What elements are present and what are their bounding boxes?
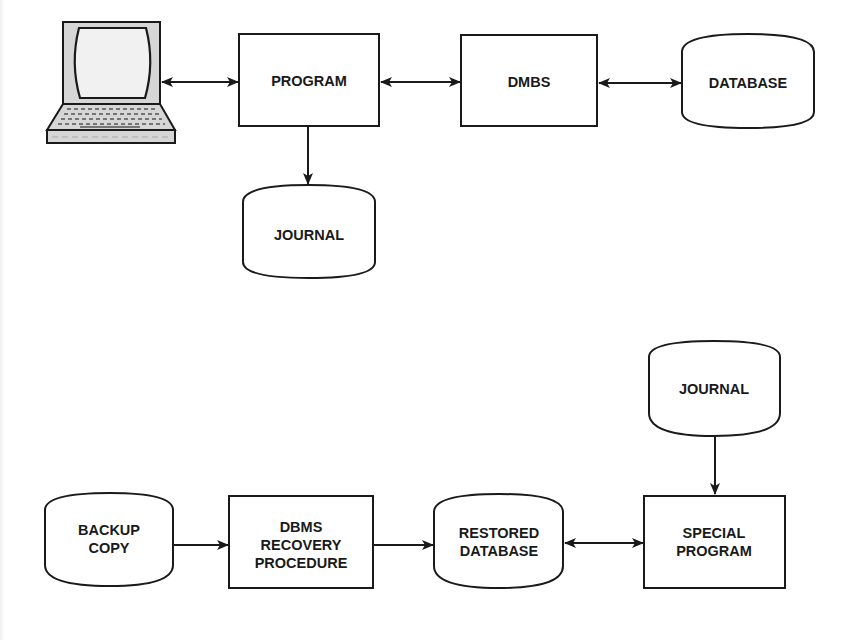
special-program-box: SPECIAL PROGRAM	[644, 496, 785, 588]
database-label: DATABASE	[709, 75, 788, 91]
dmbs-label: DMBS	[508, 74, 551, 90]
dmbs-box: DMBS	[461, 35, 597, 126]
recovery-label-line1: DBMS	[280, 519, 323, 535]
recovery-label-line2: RECOVERY	[261, 537, 342, 553]
restored-label-line2: DATABASE	[460, 543, 539, 559]
computer-terminal-icon	[47, 22, 175, 143]
restored-database-cylinder: RESTORED DATABASE	[434, 494, 563, 588]
backup-copy-cylinder: BACKUP COPY	[45, 493, 173, 586]
recovery-label-line3: PROCEDURE	[255, 555, 348, 571]
journal-cylinder-bottom: JOURNAL	[649, 341, 780, 436]
restored-label-line1: RESTORED	[459, 525, 539, 541]
backup-label-line1: BACKUP	[78, 522, 140, 538]
database-cylinder: DATABASE	[682, 34, 814, 128]
journal-label-bottom: JOURNAL	[679, 381, 749, 397]
program-label: PROGRAM	[271, 73, 347, 89]
program-box: PROGRAM	[239, 34, 379, 126]
journal-label-top: JOURNAL	[274, 227, 344, 243]
database-recovery-diagram: PROGRAM DMBS DATABASE JOURNAL JOURNAL BA…	[0, 0, 845, 640]
special-label-line2: PROGRAM	[676, 543, 752, 559]
backup-label-line2: COPY	[88, 540, 129, 556]
recovery-procedure-box: DBMS RECOVERY PROCEDURE	[229, 496, 373, 588]
journal-cylinder-top: JOURNAL	[243, 185, 375, 278]
special-label-line1: SPECIAL	[683, 525, 746, 541]
